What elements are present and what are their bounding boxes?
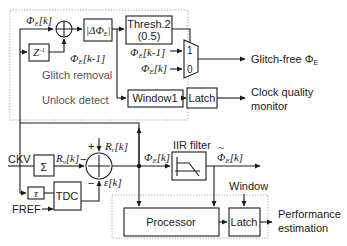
processor-label: Processor bbox=[146, 216, 196, 228]
window-label: Window bbox=[229, 180, 268, 192]
rr-k-label: Rr[k] bbox=[104, 140, 128, 154]
rv-k-label: Rv[k] bbox=[55, 152, 79, 166]
fref-label: FREF bbox=[12, 203, 41, 215]
iir-filter-label: IIR filter bbox=[173, 139, 211, 151]
glitch-free-output-label: Glitch-free ΦE bbox=[251, 53, 319, 66]
phi-e-filtered-label: ΦE[k] bbox=[217, 151, 243, 165]
pll-glitch-removal-diagram: ΦE[k] Z-1 ΦE[k-1] |ΔΦE| Thresh.2 (0.5) 1… bbox=[0, 0, 347, 246]
eps-minus-sign: − bbox=[88, 177, 94, 189]
eps-k-label: ε[k] bbox=[104, 176, 122, 188]
unlock-detect-label: Unlock detect bbox=[42, 94, 109, 106]
clock-quality-label-1: Clock quality bbox=[251, 86, 314, 98]
phi-e-k-label-top: ΦE[k] bbox=[26, 14, 52, 28]
mux-in-k-1-label: ΦE[k-1] bbox=[130, 46, 165, 60]
phi-e-k-1-label: ΦE[k-1] bbox=[70, 52, 105, 66]
ckv-to-tau-line bbox=[20, 166, 26, 193]
rv-minus-sign: − bbox=[80, 153, 86, 165]
tdc-label: TDC bbox=[56, 190, 79, 202]
window1-label: Window1 bbox=[132, 92, 177, 104]
mux-input-1: 1 bbox=[187, 45, 193, 56]
mux-in-k-label: ΦE[k] bbox=[141, 62, 167, 76]
phi-e-k-label-bottom: ΦE[k] bbox=[144, 151, 170, 165]
performance-label-1: Performance bbox=[278, 208, 341, 220]
mux-input-0: 0 bbox=[187, 64, 193, 75]
threshold-value: (0.5) bbox=[138, 30, 161, 42]
latch-top-label: Latch bbox=[189, 92, 216, 104]
delay-to-adder-line bbox=[49, 39, 64, 52]
threshold-label: Thresh.2 bbox=[127, 18, 170, 30]
sigma-icon: Σ bbox=[41, 161, 48, 173]
abs-to-window-line bbox=[117, 29, 126, 98]
rr-plus-sign: + bbox=[88, 140, 94, 152]
ckv-label: CKV bbox=[8, 153, 31, 165]
latch-bottom-label: Latch bbox=[231, 216, 258, 228]
glitch-removal-label: Glitch removal bbox=[42, 69, 112, 81]
clock-quality-label-2: monitor bbox=[251, 100, 288, 112]
performance-label-2: estimation bbox=[278, 222, 328, 234]
abs-delta-label: |ΔΦE| bbox=[86, 24, 111, 37]
